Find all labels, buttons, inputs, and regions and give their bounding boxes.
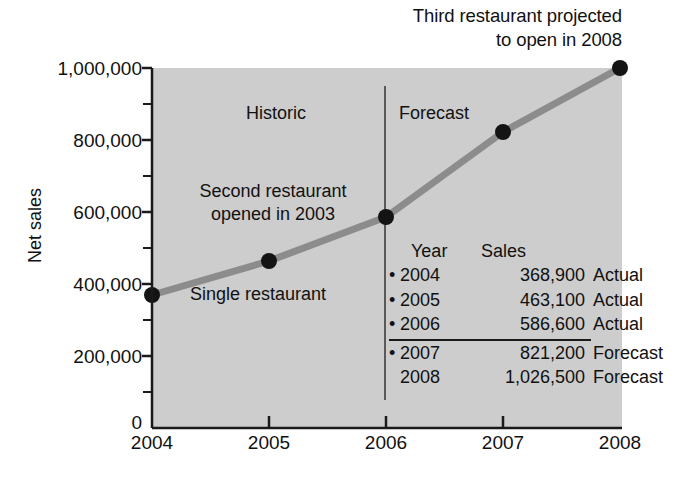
x-tick-label-2008: 2008	[575, 432, 665, 454]
y-tick-label-1000000: 1,000,000	[2, 58, 142, 80]
table-row: • 2005 463,100 Actual	[389, 288, 663, 312]
table-header-year: Year	[400, 239, 467, 263]
label-forecast: Forecast	[399, 102, 549, 125]
x-tick-label-2005: 2005	[224, 432, 314, 454]
y-tick-label-400000: 400,000	[2, 274, 142, 296]
table-header-bullet-spacer	[389, 239, 400, 263]
table-header-row: Year Sales	[389, 239, 663, 263]
row-year: 2007	[400, 340, 467, 365]
row-bullet: •	[389, 312, 400, 336]
y-tick-label-0: 0	[2, 412, 142, 434]
row-sales: 1,026,500	[467, 365, 591, 389]
top-annotation-text: Third restaurant projected to open in 20…	[292, 4, 622, 51]
row-status: Actual	[591, 312, 663, 336]
row-bullet: •	[389, 340, 400, 365]
label-second-restaurant: Second restaurant opened in 2003	[168, 180, 378, 225]
data-point-2005	[261, 253, 277, 269]
row-sales: 586,600	[467, 312, 591, 336]
sales-forecast-chart: Third restaurant projected to open in 20…	[0, 0, 677, 488]
row-sales: 463,100	[467, 288, 591, 312]
data-point-2006	[378, 209, 394, 225]
row-year: 2004	[400, 263, 467, 287]
row-status: Actual	[591, 263, 663, 287]
x-tick-label-2006: 2006	[341, 432, 431, 454]
table-row: • 2006 586,600 Actual	[389, 312, 663, 336]
row-bullet: •	[389, 263, 400, 287]
row-bullet	[389, 365, 400, 389]
table-row: • 2007 821,200 Forecast	[389, 340, 663, 365]
label-single-restaurant: Single restaurant	[190, 283, 375, 306]
data-point-2007	[495, 124, 511, 140]
y-tick-label-800000: 800,000	[2, 130, 142, 152]
row-status: Forecast	[591, 340, 663, 365]
label-historic: Historic	[196, 102, 356, 125]
row-status: Actual	[591, 288, 663, 312]
row-year: 2008	[400, 365, 467, 389]
table-row: 2008 1,026,500 Forecast	[389, 365, 663, 389]
sales-data-table: Year Sales • 2004 368,900 Actual • 2005 …	[389, 239, 663, 390]
table-header-status-spacer	[591, 239, 663, 263]
row-status: Forecast	[591, 365, 663, 389]
y-tick-label-600000: 600,000	[2, 202, 142, 224]
table-header-sales: Sales	[467, 239, 591, 263]
row-year: 2006	[400, 312, 467, 336]
x-tick-label-2007: 2007	[458, 432, 548, 454]
y-tick-label-200000: 200,000	[2, 346, 142, 368]
table-row: • 2004 368,900 Actual	[389, 263, 663, 287]
row-sales: 368,900	[467, 263, 591, 287]
row-bullet: •	[389, 288, 400, 312]
x-tick-label-2004: 2004	[107, 432, 197, 454]
row-year: 2005	[400, 288, 467, 312]
row-sales: 821,200	[467, 340, 591, 365]
y-axis-title: Net sales	[25, 161, 46, 291]
data-point-2008	[612, 60, 628, 76]
